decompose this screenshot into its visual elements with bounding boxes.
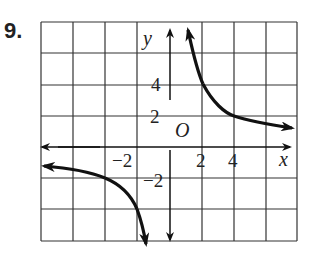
x-tick-neg2: −2	[112, 150, 132, 171]
grid	[41, 22, 297, 241]
curve-branch-positive	[188, 30, 203, 84]
origin-label: O	[175, 119, 189, 141]
x-tick-4: 4	[228, 150, 238, 171]
curve-branch-positive-2	[203, 84, 292, 128]
y-tick-4: 4	[151, 74, 161, 95]
x-tick-2: 2	[196, 150, 206, 171]
curve-branch-negative	[105, 178, 137, 209]
y-tick-2: 2	[150, 106, 160, 127]
graph: y x O 4 2 −2 −2 2 4	[0, 0, 317, 253]
x-axis-label: x	[278, 148, 288, 170]
curve-branch-negative-down	[137, 209, 146, 244]
y-axis-label: y	[141, 27, 152, 50]
y-tick-neg2: −2	[143, 170, 163, 191]
curve-branch-negative-left	[44, 166, 105, 178]
